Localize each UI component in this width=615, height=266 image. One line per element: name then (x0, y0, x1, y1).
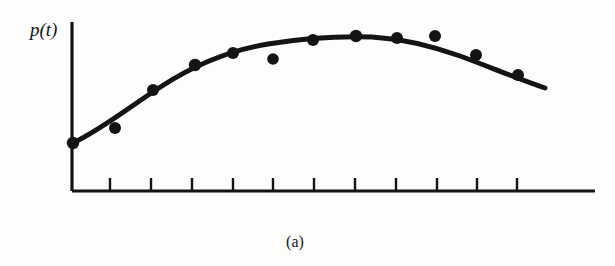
data-points (67, 30, 524, 149)
x-axis-ticks (110, 178, 517, 191)
data-point (512, 69, 524, 81)
data-point (307, 34, 319, 46)
data-point (109, 122, 121, 134)
data-point (267, 53, 279, 65)
y-axis-label: p(t) (28, 19, 57, 41)
data-point (470, 49, 482, 61)
data-point (350, 30, 362, 42)
figure-container: p(t) (a) (0, 0, 615, 266)
data-point (429, 30, 441, 42)
data-point (67, 137, 79, 149)
data-point (189, 59, 201, 71)
plot-chart: p(t) (a) (0, 0, 615, 266)
data-point (391, 32, 403, 44)
data-point (227, 47, 239, 59)
data-point (147, 84, 159, 96)
figure-caption: (a) (286, 233, 304, 251)
